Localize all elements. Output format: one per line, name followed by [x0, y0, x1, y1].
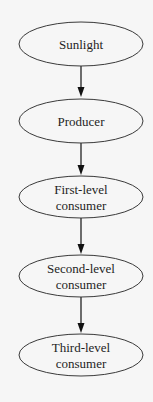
node-label: consumer — [56, 198, 107, 213]
node-producer: Producer — [19, 99, 143, 143]
node-label: Producer — [58, 114, 106, 129]
node-sunlight: Sunlight — [19, 22, 143, 66]
food-chain-diagram: SunlightProducerFirst-levelconsumerSecon… — [0, 0, 153, 402]
node-first-level-consumer: First-levelconsumer — [19, 176, 143, 218]
node-second-level-consumer: Second-levelconsumer — [19, 255, 143, 297]
arrow-down-icon — [78, 87, 85, 97]
arrow-down-icon — [78, 165, 85, 175]
node-third-level-consumer: Third-levelconsumer — [19, 334, 143, 376]
node-label: First-level — [54, 182, 108, 197]
arrow-sunlight-to-producer — [78, 66, 85, 97]
arrow-down-icon — [78, 323, 85, 333]
arrow-first-level-consumer-to-second-level-consumer — [78, 218, 85, 254]
node-label: Second-level — [47, 261, 115, 276]
node-label: consumer — [56, 356, 107, 371]
node-label: Third-level — [52, 340, 111, 355]
arrow-second-level-consumer-to-third-level-consumer — [78, 297, 85, 333]
node-label: consumer — [56, 277, 107, 292]
arrow-producer-to-first-level-consumer — [78, 143, 85, 175]
node-label: Sunlight — [59, 37, 103, 52]
arrow-down-icon — [78, 244, 85, 254]
